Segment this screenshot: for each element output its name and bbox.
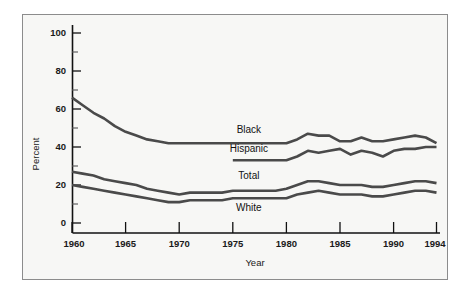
x-tick-label: 1980 <box>276 238 297 249</box>
y-tick-label: 80 <box>55 65 66 76</box>
y-axis-ticks <box>72 33 81 223</box>
x-tick-label: 1994 <box>424 238 446 249</box>
x-axis-title: Year <box>245 257 264 268</box>
series-label-black: Black <box>237 124 262 135</box>
x-tick-label: 1965 <box>115 238 137 249</box>
y-tick-label: 40 <box>55 141 66 152</box>
series-label-hispanic: Hispanic <box>230 143 268 154</box>
x-tick-label: 1975 <box>222 238 244 249</box>
y-tick-label: 60 <box>55 103 66 114</box>
line-chart: Percent 100 80 60 40 20 0 <box>22 14 448 280</box>
series-line-black <box>72 98 437 144</box>
x-tick-label: 1970 <box>169 238 190 249</box>
x-tick-label: 1985 <box>329 238 351 249</box>
chart-page: Percent 100 80 60 40 20 0 <box>0 0 469 296</box>
y-tick-label: 20 <box>55 179 66 190</box>
y-tick-label: 0 <box>61 217 66 228</box>
series-label-white: White <box>236 202 262 213</box>
y-axis-title: Percent <box>30 137 41 170</box>
x-tick-label: 1960 <box>63 238 84 249</box>
y-tick-label: 100 <box>50 27 66 38</box>
x-tick-label: 1990 <box>383 238 404 249</box>
series-label-total: Total <box>238 170 259 181</box>
x-axis-ticks <box>72 222 437 233</box>
x-tick-labels: 1960 1965 1970 1975 1980 1985 1990 1994 <box>63 238 446 249</box>
y-tick-labels: 100 80 60 40 20 0 <box>50 27 66 228</box>
